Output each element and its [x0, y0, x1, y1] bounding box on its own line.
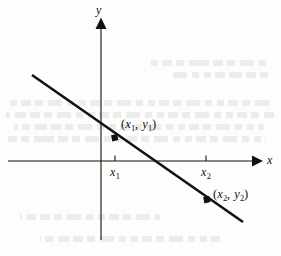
point-marker-2 — [203, 196, 210, 203]
point-2-x-subscript: 2 — [223, 193, 227, 203]
y-axis-label: y — [96, 4, 101, 16]
tick-label-x1-base: x — [110, 165, 115, 179]
tick-label-x1: x1 — [110, 166, 120, 178]
point-2-label: (x2, y2) — [213, 188, 248, 201]
tick-label-x2-base: x — [201, 165, 206, 179]
point-2-x-base: x — [217, 187, 223, 201]
point-1-x-base: x — [125, 117, 131, 131]
point-1-close-paren: ) — [152, 117, 156, 131]
point-1-y-subscript: 1 — [148, 123, 152, 133]
point-2-y-subscript: 2 — [240, 193, 244, 203]
tick-label-x2-subscript: 2 — [207, 171, 211, 181]
secant-line — [32, 75, 243, 222]
point-1-x-subscript: 1 — [131, 123, 135, 133]
point-2-close-paren: ) — [244, 187, 248, 201]
tick-label-x2: x2 — [201, 166, 211, 178]
figure-canvas: y x x1 x2 (x1, y1) (x2, y2) — [0, 0, 281, 256]
point-1-label: (x1, y1) — [121, 118, 156, 131]
x-axis-arrowhead — [252, 156, 263, 167]
point-marker-1 — [111, 134, 118, 141]
x-axis-label: x — [267, 154, 272, 166]
point-2-y-base: y — [234, 187, 240, 201]
tick-label-x1-subscript: 1 — [116, 171, 120, 181]
point-1-y-base: y — [142, 117, 148, 131]
y-axis-arrowhead — [96, 18, 107, 30]
